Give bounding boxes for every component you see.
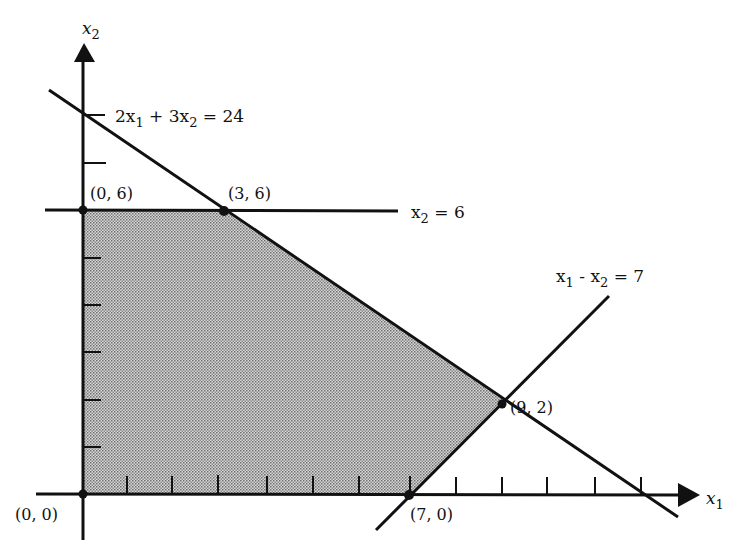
x-axis-label: x1 [706,488,724,512]
y-axis-arrow-icon [74,43,95,62]
y-axis-label: x2 [82,18,100,42]
lp-feasible-region-diagram: x2 x1 2x1 + 3x2 = 24 x2 = 6 x1 - x2 = 7 … [0,0,745,560]
vertex-7-0 [404,490,414,500]
vertex-0-0 [79,490,88,499]
vertex-label-9-2: (9, 2) [510,398,553,417]
vertex-label-0-6: (0, 6) [90,184,133,203]
equation-label-x1-x2-7: x1 - x2 = 7 [556,266,644,290]
vertex-9-2 [498,400,507,409]
vertex-0-6 [79,206,88,215]
vertex-label-0-0: (0, 0) [15,505,58,524]
equation-label-x2-6: x2 = 6 [411,202,465,226]
vertex-3-6 [219,206,229,216]
x-axis-arrow-icon [678,483,700,507]
equation-label-2x1-3x2-24: 2x1 + 3x2 = 24 [115,106,244,130]
vertex-label-7-0: (7, 0) [410,505,453,524]
vertex-label-3-6: (3, 6) [228,184,271,203]
feasible-region [83,210,503,494]
